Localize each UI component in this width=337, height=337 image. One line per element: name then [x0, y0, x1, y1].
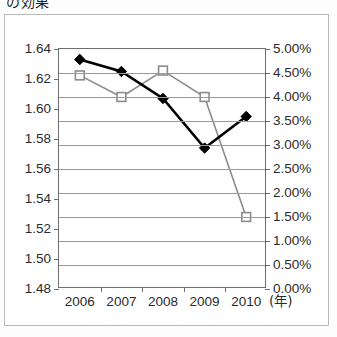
y-left-tick-mark — [54, 169, 59, 170]
x-axis-label: 2009 — [190, 295, 220, 309]
y-right-tick-mark — [265, 73, 270, 74]
y-axis-right-label: 4.50% — [273, 66, 311, 80]
chart-figure: の効果 5.00%4.50%4.00%3.50%3.00%2.50%2.00%1… — [0, 0, 337, 337]
y-axis-right-label: 1.00% — [273, 234, 311, 248]
y-right-tick-mark — [265, 121, 270, 122]
gridline — [59, 145, 265, 146]
x-tick-mark — [142, 287, 143, 292]
y-left-tick-mark — [54, 289, 59, 290]
y-right-tick-mark — [265, 289, 270, 290]
plot-area: 5.00%4.50%4.00%3.50%3.00%2.50%2.00%1.50%… — [58, 48, 266, 288]
x-axis-unit-label: (年) — [269, 295, 293, 309]
x-tick-mark — [184, 287, 185, 292]
gridline — [59, 73, 265, 74]
y-axis-left-label: 1.60 — [25, 102, 51, 116]
y-right-tick-mark — [265, 193, 270, 194]
y-left-tick-mark — [54, 199, 59, 200]
gridline — [59, 241, 265, 242]
y-axis-right-label: 1.50% — [273, 210, 311, 224]
y-right-tick-mark — [265, 241, 270, 242]
y-left-tick-mark — [54, 139, 59, 140]
y-axis-left-label: 1.56 — [25, 162, 51, 176]
y-right-tick-mark — [265, 145, 270, 146]
y-right-tick-mark — [265, 49, 270, 50]
y-axis-right-label: 3.50% — [273, 114, 311, 128]
x-axis-label: 2006 — [65, 295, 95, 309]
y-axis-left-label: 1.52 — [25, 222, 51, 236]
y-left-tick-mark — [54, 109, 59, 110]
y-axis-left-label: 1.54 — [25, 192, 51, 206]
x-axis-label: 2008 — [148, 295, 178, 309]
y-right-tick-mark — [265, 169, 270, 170]
y-axis-left-label: 1.64 — [25, 42, 51, 56]
y-axis-right-label: 0.50% — [273, 258, 311, 272]
figure-caption: の効果 — [6, 0, 50, 11]
x-axis-label: 2010 — [231, 295, 261, 309]
y-right-tick-mark — [265, 97, 270, 98]
y-left-tick-mark — [54, 49, 59, 50]
x-tick-mark — [101, 287, 102, 292]
series-line — [80, 71, 246, 217]
y-right-tick-mark — [265, 217, 270, 218]
y-axis-left-label: 1.62 — [25, 72, 51, 86]
x-axis-label: 2007 — [106, 295, 136, 309]
gridline — [59, 97, 265, 98]
y-axis-right-label: 5.00% — [273, 42, 311, 56]
gridline — [59, 265, 265, 266]
gridline — [59, 193, 265, 194]
y-axis-right-label: 3.00% — [273, 138, 311, 152]
gridline — [59, 169, 265, 170]
x-tick-mark — [225, 287, 226, 292]
y-axis-right-label: 4.00% — [273, 90, 311, 104]
y-left-tick-mark — [54, 229, 59, 230]
y-right-tick-mark — [265, 265, 270, 266]
data-point-diamond — [75, 54, 85, 64]
gridline — [59, 121, 265, 122]
y-left-tick-mark — [54, 259, 59, 260]
gridline — [59, 217, 265, 218]
y-axis-right-label: 2.00% — [273, 186, 311, 200]
y-left-tick-mark — [54, 79, 59, 80]
y-axis-left-label: 1.48 — [25, 282, 51, 296]
y-axis-left-label: 1.58 — [25, 132, 51, 146]
y-axis-right-label: 2.50% — [273, 162, 311, 176]
y-axis-left-label: 1.50 — [25, 252, 51, 266]
